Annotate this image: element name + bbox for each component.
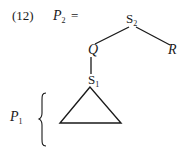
edge-s2-r <box>136 27 170 45</box>
subtree-triangle <box>60 87 121 123</box>
curly-brace <box>39 93 46 146</box>
edge-s2-q <box>95 27 129 44</box>
tree-diagram-lines <box>0 0 187 151</box>
